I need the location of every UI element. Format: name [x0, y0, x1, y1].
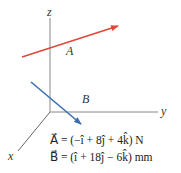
axes-and-vectors — [0, 0, 181, 173]
vector-b-arrow — [31, 82, 81, 124]
x-axis — [18, 112, 50, 151]
equation-b: B⃗ = (î + 18ĵ − 6k̂) mm — [50, 152, 153, 164]
vector-b-label: B⃗ — [82, 93, 99, 105]
equation-a: A⃗ = (−î + 8ĵ + 4k̂) N — [50, 135, 144, 147]
vector-a-label: A⃗ — [66, 45, 83, 57]
y-axis-label: y — [161, 105, 166, 117]
vector-diagram: z y x A⃗ B⃗ A⃗ = (−î + 8ĵ + 4k̂) N B⃗ = … — [0, 0, 181, 173]
z-axis-label: z — [47, 6, 52, 18]
x-axis-label: x — [8, 150, 13, 162]
